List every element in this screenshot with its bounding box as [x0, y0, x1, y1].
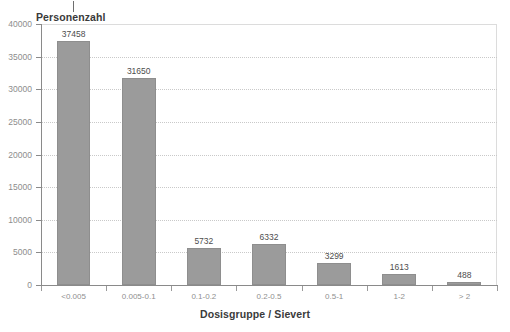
y-axis-tick-label: 40000 [0, 19, 32, 29]
y-axis-tick-label: 25000 [0, 117, 32, 127]
y-axis-tick-label: 10000 [0, 215, 32, 225]
bar-value-label: 1613 [390, 262, 409, 272]
y-axis-line [41, 24, 42, 286]
x-axis-tick [171, 286, 172, 291]
x-axis-tick [236, 286, 237, 291]
y-axis-tick-label: 15000 [0, 182, 32, 192]
y-axis-tick-label: 20000 [0, 150, 32, 160]
x-axis-tick-label: <0.005 [61, 292, 86, 301]
x-axis-tick [302, 286, 303, 291]
gridline [42, 155, 497, 156]
x-axis-tick [41, 286, 42, 291]
bar [317, 263, 351, 285]
y-axis-tick-label: 5000 [0, 247, 32, 257]
bar-value-label: 37458 [62, 29, 86, 39]
bar-value-label: 3299 [325, 251, 344, 261]
x-axis-tick-label: 0.2-0.5 [257, 292, 282, 301]
bar-value-label: 31650 [127, 66, 151, 76]
y-axis-tick-label: 35000 [0, 52, 32, 62]
gridline [42, 220, 497, 221]
x-axis-tick-label: 0.005-0.1 [122, 292, 156, 301]
gridline [42, 187, 497, 188]
bar [122, 78, 156, 285]
bar [447, 282, 481, 285]
x-axis-tick [367, 286, 368, 291]
gridline [42, 122, 497, 123]
y-axis-title: Personenzahl [36, 11, 105, 23]
x-axis-tick [432, 286, 433, 291]
x-axis-title: Dosisgruppe / Sievert [0, 308, 510, 320]
bar [57, 41, 91, 285]
gridline [42, 89, 497, 90]
bar-chart: Personenzahl 050001000015000200002500030… [0, 0, 510, 332]
x-axis-tick-label: 1-2 [394, 292, 406, 301]
bar [382, 274, 416, 285]
y-axis-tick-label: 30000 [0, 84, 32, 94]
bar-value-label: 6332 [260, 232, 279, 242]
bar [187, 248, 221, 285]
x-axis-tick-label: 0.1-0.2 [191, 292, 216, 301]
gridline [42, 57, 497, 58]
y-axis-tick-label: 0 [0, 280, 32, 290]
x-axis-tick [497, 286, 498, 291]
bar-value-label: 488 [457, 270, 471, 280]
x-axis-tick-label: 0.5-1 [325, 292, 343, 301]
bar [252, 244, 286, 285]
bar-value-label: 5732 [194, 236, 213, 246]
x-axis-tick-label: > 2 [459, 292, 470, 301]
x-axis-tick [106, 286, 107, 291]
x-axis-line [41, 285, 498, 286]
